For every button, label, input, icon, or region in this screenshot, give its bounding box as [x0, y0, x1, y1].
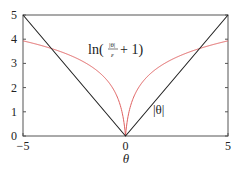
- y-tick-label: 5: [11, 8, 17, 22]
- annotation-abs-theta: |θ|: [153, 102, 164, 117]
- chart: 012345 −505 ln( |θ| ε + 1) |θ| θ: [0, 0, 243, 172]
- plot-area: 012345 −505: [11, 8, 231, 153]
- y-tick-label: 2: [11, 81, 17, 95]
- series-abs-theta: [23, 15, 228, 136]
- x-tick-label: −5: [17, 139, 30, 153]
- y-axis-ticks: 012345: [11, 8, 228, 143]
- x-axis-label: θ: [123, 151, 130, 166]
- annotation-log-tail: + 1): [120, 42, 143, 58]
- annotation-log-prefix: ln(: [88, 42, 104, 58]
- y-tick-label: 3: [11, 56, 17, 70]
- series-group: [23, 15, 228, 136]
- y-tick-label: 1: [11, 105, 17, 119]
- x-tick-label: 5: [225, 139, 231, 153]
- annotation-frac-denominator: ε: [111, 51, 114, 59]
- annotation-log-curve: ln( |θ| ε + 1): [88, 41, 143, 59]
- plot-frame: [23, 15, 228, 136]
- y-tick-label: 4: [11, 32, 17, 46]
- annotation-frac-numerator: |θ|: [109, 41, 115, 49]
